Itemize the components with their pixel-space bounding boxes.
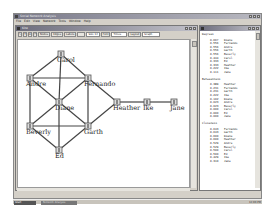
results-window-titlebar[interactable] [200, 26, 260, 31]
nodes-button[interactable]: Nodes [38, 32, 50, 37]
network-graph [18, 40, 191, 189]
pointer-tool-icon[interactable]: ↖ [18, 32, 22, 37]
results-scroll-thumb[interactable] [256, 33, 260, 40]
results-window: Degrees 0.667Diane0.556Fernando0.556Andr… [199, 25, 261, 191]
node-name: Jane [224, 160, 231, 164]
app-window: Social Network Analysis File Edit View N… [13, 13, 262, 199]
node-label-beverly: Beverly [26, 128, 51, 136]
metric-value: 0.310 [210, 160, 224, 164]
minimize-button[interactable] [249, 15, 252, 18]
betweenness-row: 0.000Jane [201, 115, 256, 119]
node-name: Jane [224, 115, 231, 119]
app-icon [15, 15, 18, 18]
node-tool-icon[interactable]: □ [33, 32, 37, 37]
size-field[interactable]: Size 12 [86, 32, 99, 37]
menu-file[interactable]: File [16, 19, 21, 24]
menu-window[interactable]: Window [69, 19, 81, 24]
node-label-heather: Heather [113, 104, 140, 112]
results-text: Degrees 0.667Diane0.556Fernando0.556Andr… [201, 32, 256, 188]
start-button[interactable]: Start [14, 201, 36, 205]
node-label-ike: Ike [143, 104, 153, 112]
closeness-title: Closeness [201, 122, 256, 126]
scroll-thumb[interactable] [192, 41, 197, 47]
results-minimize-button[interactable] [248, 27, 251, 30]
node-label-carol: Carol [57, 56, 75, 64]
maximize-button[interactable] [253, 15, 256, 18]
vertical-scrollbar[interactable] [190, 39, 196, 188]
menu-view[interactable]: View [33, 19, 40, 24]
horizontal-scrollbar[interactable] [17, 188, 190, 191]
edges-button[interactable]: Edges [51, 32, 63, 37]
font-label: Font [101, 32, 111, 37]
network-canvas[interactable]: CarolAndreFernandoDianeHeatherIkeJaneBev… [17, 39, 190, 188]
menu-help[interactable]: Help [84, 19, 91, 24]
doc-close-button[interactable] [193, 27, 196, 30]
doc-minimize-button[interactable] [185, 27, 188, 30]
close-button[interactable] [257, 15, 260, 18]
degrees-row: 0.111Jane [201, 71, 256, 75]
blank-button[interactable] [77, 32, 85, 37]
node-label-jane: Jane [170, 104, 185, 112]
results-close-button[interactable] [256, 27, 259, 30]
metric-value: 0.111 [210, 71, 224, 75]
degrees-title: Degrees [201, 33, 256, 37]
menu-bar: File Edit View Network Tools Window Help [14, 19, 261, 24]
results-maximize-button[interactable] [252, 27, 255, 30]
results-scrollbar[interactable] [255, 31, 260, 188]
betweenness-title: Betweenness [201, 78, 256, 82]
system-clock: 12:00 PM [231, 201, 261, 205]
layout-select[interactable]: Graph [142, 32, 160, 37]
font-select[interactable]: Times [111, 32, 127, 37]
node-label-garth: Garth [84, 128, 103, 136]
node-label-fernando: Fernando [84, 80, 115, 88]
node-name: Jane [224, 71, 231, 75]
doc-maximize-button[interactable] [189, 27, 192, 30]
closeness-row: 0.310Jane [201, 160, 256, 164]
menu-edit[interactable]: Edit [24, 19, 30, 24]
node-label-diane: Diane [55, 104, 74, 112]
menu-network[interactable]: Network [43, 19, 56, 24]
menu-tools[interactable]: Tools [59, 19, 66, 24]
text-tool-icon[interactable]: T [23, 32, 27, 37]
taskbar: Start Network Analysis 12:00 PM [13, 199, 262, 204]
document-icon [17, 27, 20, 30]
metric-value: 0.000 [210, 115, 224, 119]
document-icon [201, 27, 204, 30]
node-label-ed: Ed [55, 152, 64, 160]
layout-label: Layout [128, 32, 141, 37]
label-tool-icon[interactable]: A [28, 32, 32, 37]
labels-button[interactable]: Labels [64, 32, 76, 37]
network-window: Kite ↖ T A □ Nodes Edges Labels Size 12 … [15, 25, 198, 191]
node-label-andre: Andre [26, 80, 46, 88]
toolbar: ↖ T A □ Nodes Edges Labels Size 12 Font … [16, 31, 197, 38]
taskbar-app-button[interactable]: Network Analysis [41, 201, 77, 205]
